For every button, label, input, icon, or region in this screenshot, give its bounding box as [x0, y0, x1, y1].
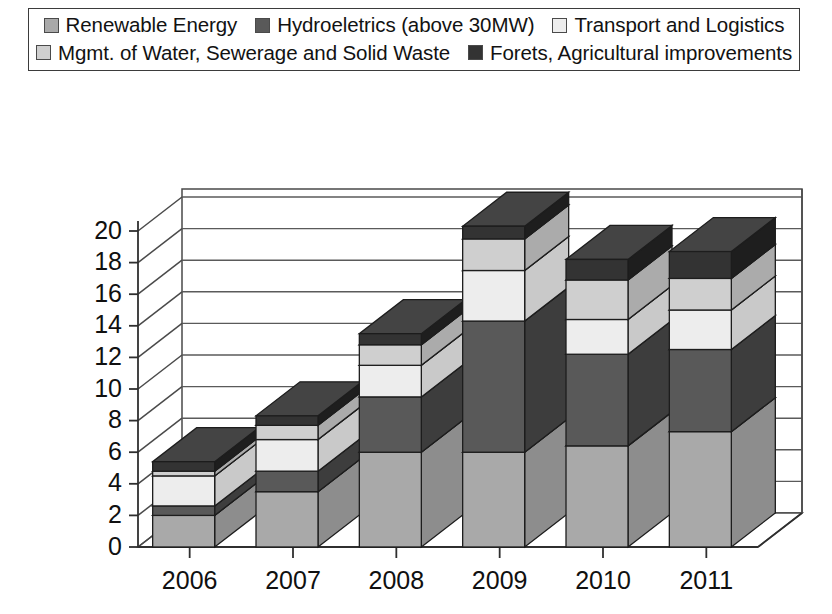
- bar-segment-front-face: [359, 397, 421, 452]
- chart-plot-area: 02468101214161820 2006200720082009201020…: [0, 104, 832, 614]
- chart-container: Renewable Energy Hydroeletrics (above 30…: [0, 0, 832, 614]
- y-tick-label-18: 18: [94, 247, 122, 275]
- bar-segment-front-face: [256, 416, 318, 425]
- bar-segment-front-face: [153, 506, 215, 515]
- bar-segment-front-face: [256, 440, 318, 472]
- depth-connector: [138, 355, 182, 389]
- legend-swatch-hydroeletrics: [255, 18, 270, 33]
- bar-segment-front-face: [256, 425, 318, 439]
- bar-segment-front-face: [463, 452, 525, 547]
- bar-group-2008: [359, 300, 465, 547]
- bar-group-2007: [256, 382, 362, 547]
- bar-segment-front-face: [359, 365, 421, 397]
- depth-connector: [138, 292, 182, 326]
- depth-connector: [138, 387, 182, 421]
- bar-segment-front-face: [463, 321, 525, 452]
- legend-swatch-renewable-energy: [44, 18, 59, 33]
- depth-connector: [138, 197, 182, 231]
- y-tick-label-16: 16: [94, 279, 122, 307]
- legend-label-transport-and-logistics: Transport and Logistics: [574, 15, 784, 36]
- bar-segment-front-face: [566, 446, 628, 547]
- legend-swatch-forets-agricultural-improvements: [468, 45, 483, 60]
- bar-group-2010: [566, 225, 672, 547]
- legend-item-transport-and-logistics[interactable]: Transport and Logistics: [552, 15, 784, 36]
- x-tick-label-2010: 2010: [575, 566, 631, 594]
- legend-item-renewable-energy[interactable]: Renewable Energy: [44, 15, 238, 36]
- depth-connector: [138, 323, 182, 357]
- legend-item-forets-agricultural-improvements[interactable]: Forets, Agricultural improvements: [468, 43, 792, 64]
- y-tick-label-2: 2: [108, 500, 122, 528]
- legend-label-forets-agricultural-improvements: Forets, Agricultural improvements: [490, 43, 792, 64]
- bar-segment-front-face: [463, 271, 525, 322]
- x-tick-label-2007: 2007: [265, 566, 321, 594]
- depth-connector: [138, 229, 182, 263]
- x-tick-label-2008: 2008: [369, 566, 425, 594]
- y-tick-label-10: 10: [94, 374, 122, 402]
- bar-segment-front-face: [669, 350, 731, 432]
- y-tick-label-20: 20: [94, 216, 122, 244]
- bar-group-2011: [669, 218, 775, 547]
- bar-segment-front-face: [256, 492, 318, 547]
- y-tick-label-14: 14: [94, 310, 122, 338]
- bar-segment-front-face: [669, 278, 731, 310]
- x-tick-label-2006: 2006: [162, 566, 218, 594]
- chart-svg: 02468101214161820 2006200720082009201020…: [0, 104, 832, 614]
- bar-segment-front-face: [153, 515, 215, 547]
- bar-segment-front-face: [566, 319, 628, 354]
- legend-item-mgmt-water-sewerage-solid-waste[interactable]: Mgmt. of Water, Sewerage and Solid Waste: [36, 43, 450, 64]
- x-tick-label-2011: 2011: [679, 566, 733, 594]
- bar-segment-front-face: [566, 354, 628, 446]
- legend-item-hydroeletrics[interactable]: Hydroeletrics (above 30MW): [255, 15, 534, 36]
- bar-segment-front-face: [463, 226, 525, 239]
- bar-segment-front-face: [359, 345, 421, 366]
- legend-swatch-transport-and-logistics: [552, 18, 567, 33]
- y-tick-label-0: 0: [108, 532, 122, 560]
- bar-segment-front-face: [153, 462, 215, 471]
- y-tick-label-4: 4: [108, 468, 122, 496]
- bar-segment-front-face: [256, 471, 318, 492]
- legend-label-renewable-energy: Renewable Energy: [66, 15, 238, 36]
- bar-segment-front-face: [566, 259, 628, 280]
- bar-segment-front-face: [359, 334, 421, 345]
- bar-segment-front-face: [669, 432, 731, 547]
- legend-label-mgmt-water-sewerage-solid-waste: Mgmt. of Water, Sewerage and Solid Waste: [58, 43, 450, 64]
- chart-y-tick-labels: 02468101214161820: [94, 216, 122, 560]
- y-tick-label-12: 12: [94, 342, 122, 370]
- chart-x-tick-labels: 200620072008200920102011: [162, 566, 733, 594]
- legend-row-2: Mgmt. of Water, Sewerage and Solid Waste…: [39, 43, 789, 64]
- y-tick-label-8: 8: [108, 405, 122, 433]
- bar-segment-front-face: [153, 471, 215, 476]
- bar-segment-front-face: [359, 452, 421, 547]
- bar-group-2009: [463, 192, 569, 547]
- x-tick-label-2009: 2009: [472, 566, 528, 594]
- depth-connector: [138, 260, 182, 294]
- legend-row-1: Renewable Energy Hydroeletrics (above 30…: [39, 15, 789, 36]
- bar-segment-front-face: [566, 280, 628, 320]
- legend-swatch-mgmt-water-sewerage-solid-waste: [36, 45, 51, 60]
- chart-legend: Renewable Energy Hydroeletrics (above 30…: [28, 8, 800, 71]
- y-tick-label-6: 6: [108, 437, 122, 465]
- legend-label-hydroeletrics: Hydroeletrics (above 30MW): [277, 15, 534, 36]
- bar-segment-front-face: [153, 476, 215, 506]
- bar-segment-front-face: [463, 239, 525, 271]
- bar-segment-front-face: [669, 310, 731, 350]
- bar-segment-front-face: [669, 252, 731, 279]
